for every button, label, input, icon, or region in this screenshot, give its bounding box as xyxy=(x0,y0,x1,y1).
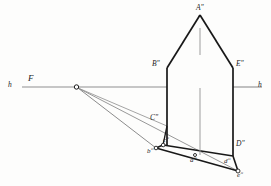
ray-f-to-b xyxy=(78,88,156,148)
label-base-e: eʺ xyxy=(237,172,243,179)
label-base-upper-left: Cʺ xyxy=(150,114,158,122)
roof-left-slope xyxy=(167,15,200,68)
diagram-canvas: h h F Aʺ Bʺ Eʺ Cʺ Dʺ bʺ cʺ aʺ dʺ eʺ xyxy=(0,0,271,186)
label-horizon-right: h xyxy=(258,81,262,89)
label-left-eave: Bʺ xyxy=(152,60,160,68)
label-base-c: cʺ xyxy=(163,137,169,144)
label-base-b: bʺ xyxy=(147,148,153,155)
vanishing-point-marker xyxy=(74,85,78,89)
point-marker-b xyxy=(154,146,158,150)
roof-right-slope xyxy=(200,15,233,68)
label-vanishing-point: F xyxy=(28,74,34,83)
ray-f-to-a-extended xyxy=(78,88,238,171)
label-right-eave: Eʺ xyxy=(236,60,244,68)
label-base-a: aʺ xyxy=(190,157,196,164)
label-base-upper-right: Dʺ xyxy=(236,140,245,148)
base-edge-c-to-d xyxy=(163,145,233,156)
label-apex: Aʺ xyxy=(196,4,204,12)
label-base-d: dʺ xyxy=(224,158,230,165)
label-horizon-left: h xyxy=(8,81,12,89)
